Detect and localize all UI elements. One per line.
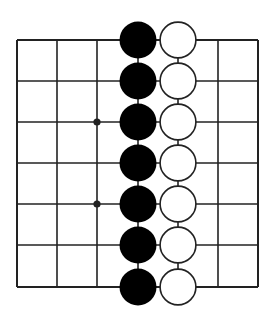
white-stone [160,22,196,58]
white-stone [160,104,196,140]
black-stone [120,186,157,223]
black-stone [120,104,157,141]
white-stone [160,63,196,99]
black-stone [120,227,157,264]
black-stone [120,145,157,182]
star-point [93,118,100,125]
black-stone [120,22,157,59]
black-stone [120,269,157,306]
white-stone [160,186,196,222]
black-stone [120,63,157,100]
white-stone [160,145,196,181]
go-board [0,0,272,322]
white-stone [160,269,196,305]
star-point [93,200,100,207]
white-stone [160,227,196,263]
go-board-svg [0,0,272,322]
